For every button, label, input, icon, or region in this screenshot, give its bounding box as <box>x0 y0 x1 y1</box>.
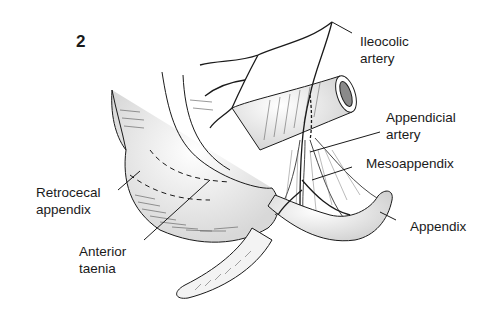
cecum <box>112 72 279 242</box>
label-ileocolic-artery: Ileocolic artery <box>360 33 409 67</box>
figure-number: 2 <box>76 33 85 50</box>
label-anterior-taenia: Anterior taenia <box>79 243 126 277</box>
label-mesoappendix: Mesoappendix <box>366 155 454 172</box>
label-retrocecal-appendix: Retrocecal appendix <box>36 184 101 218</box>
label-appendix: Appendix <box>410 218 466 235</box>
ileum <box>232 73 360 150</box>
label-appendicial-artery: Appendicial artery <box>386 109 456 143</box>
anatomy-figure: 2 Ileocolic artery Appendicial artery Me… <box>0 0 504 319</box>
